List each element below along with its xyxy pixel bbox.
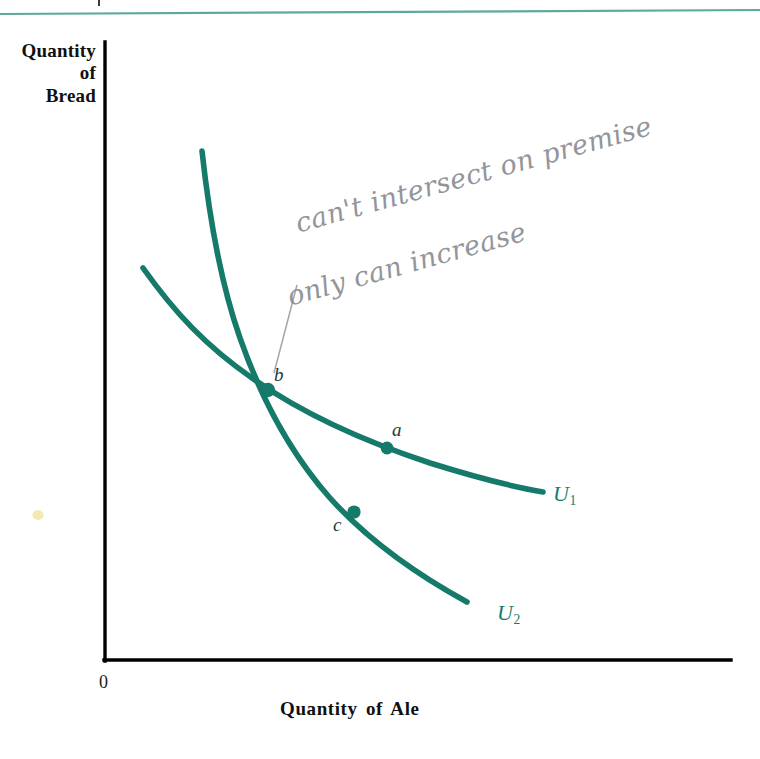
figure-page: Quantity of Bread Quantity of Ale 0 U1 U… xyxy=(0,0,760,759)
point-label-c: c xyxy=(333,514,341,536)
curve-label-u1-subscript: 1 xyxy=(569,493,576,508)
highlighter-speck xyxy=(33,510,44,520)
curve-label-u1: U1 xyxy=(553,481,576,509)
point-label-b: b xyxy=(274,364,284,386)
curve-u1 xyxy=(143,268,543,492)
curve-label-u2: U2 xyxy=(497,600,520,628)
data-point-c xyxy=(347,505,360,518)
curve-label-u2-subscript: 2 xyxy=(513,612,520,627)
data-point-a xyxy=(381,442,394,455)
y-axis-title: Quantity of Bread xyxy=(0,40,96,107)
curve-label-u2-letter: U xyxy=(497,600,513,625)
point-label-a: a xyxy=(392,419,402,441)
origin-label: 0 xyxy=(99,672,108,693)
page-top-rule xyxy=(0,10,760,14)
curve-label-u1-letter: U xyxy=(553,481,569,506)
x-axis-title: Quantity of Ale xyxy=(280,698,420,720)
